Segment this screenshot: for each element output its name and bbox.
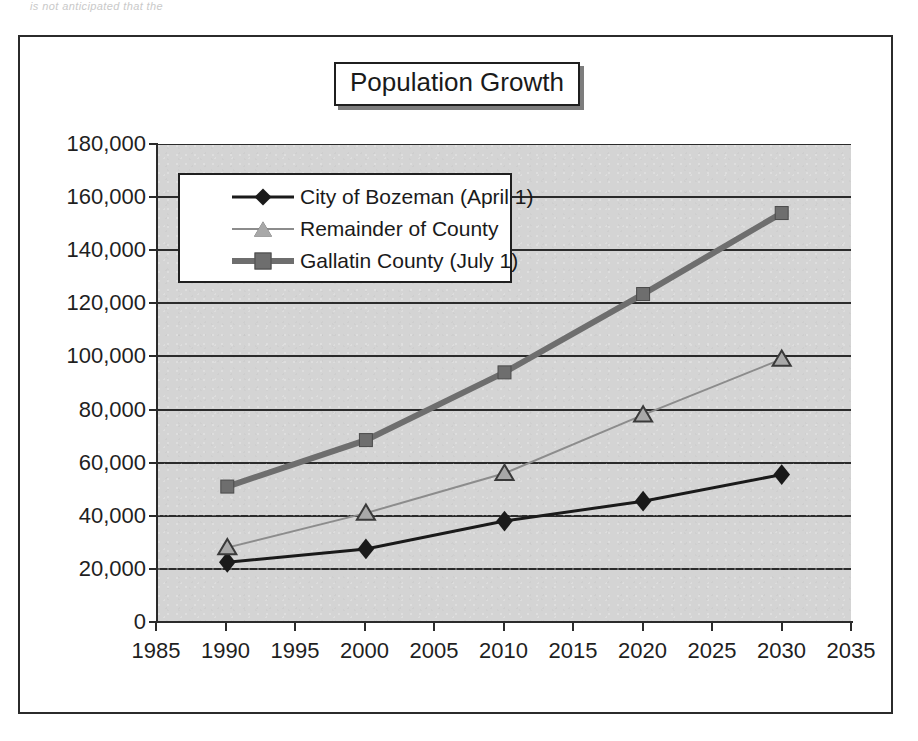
y-tick-mark (149, 462, 158, 464)
y-tick-label: 160,000 (30, 184, 146, 210)
data-point-marker (635, 491, 652, 512)
data-point-marker (358, 539, 375, 560)
legend-diamond-icon (232, 186, 294, 208)
data-point-marker (498, 366, 511, 379)
legend-item: City of Bozeman (April 1) (180, 181, 510, 213)
chart-title-box: Population Growth (334, 62, 580, 106)
x-tick-label: 2005 (410, 638, 459, 664)
legend-item-label: City of Bozeman (April 1) (300, 185, 533, 209)
legend-square-icon (232, 250, 294, 272)
y-tick-mark (149, 302, 158, 304)
data-point-marker (634, 406, 652, 421)
legend-item-label: Remainder of County (300, 217, 498, 241)
x-tick-mark (711, 621, 713, 631)
y-tick-label: 40,000 (30, 503, 146, 529)
x-tick-label: 2030 (757, 638, 806, 664)
x-tick-mark (433, 621, 435, 631)
x-tick-mark (364, 621, 366, 631)
x-tick-mark (642, 621, 644, 631)
x-tick-mark (225, 621, 227, 631)
x-tick-label: 1990 (201, 638, 250, 664)
x-tick-label: 2035 (827, 638, 876, 664)
legend-item: Remainder of County (180, 213, 510, 245)
y-tick-mark (149, 621, 158, 623)
data-point-marker (637, 288, 650, 301)
y-tick-mark (149, 196, 158, 198)
data-point-marker (221, 480, 234, 493)
x-tick-label: 2010 (479, 638, 528, 664)
x-tick-label: 1995 (271, 638, 320, 664)
x-tick-mark (850, 621, 852, 631)
legend-item: Gallatin County (July 1) (180, 245, 510, 277)
chart-page: is not anticipated that the Population G… (0, 0, 918, 741)
x-tick-label: 2025 (688, 638, 737, 664)
y-tick-mark (149, 249, 158, 251)
y-tick-label: 180,000 (30, 131, 146, 157)
y-tick-mark (149, 355, 158, 357)
x-tick-label: 2015 (549, 638, 598, 664)
y-tick-label: 0 (30, 609, 146, 635)
y-tick-label: 60,000 (30, 450, 146, 476)
data-point-marker (496, 511, 513, 532)
y-tick-label: 80,000 (30, 397, 146, 423)
y-tick-label: 120,000 (30, 290, 146, 316)
y-tick-mark (149, 568, 158, 570)
x-tick-mark (503, 621, 505, 631)
y-tick-label: 20,000 (30, 556, 146, 582)
x-tick-label: 2000 (340, 638, 389, 664)
chart-legend: City of Bozeman (April 1)Remainder of Co… (178, 173, 512, 283)
x-axis-line (156, 621, 853, 623)
data-point-marker (495, 465, 513, 480)
y-tick-mark (149, 515, 158, 517)
data-point-marker (773, 464, 790, 485)
legend-triangle-icon (232, 218, 294, 240)
chart-title: Population Growth (350, 68, 564, 98)
data-point-marker (359, 434, 372, 447)
y-tick-mark (149, 143, 158, 145)
y-tick-label: 100,000 (30, 343, 146, 369)
x-tick-mark (781, 621, 783, 631)
scan-text-fragment: is not anticipated that the (30, 0, 163, 12)
y-tick-label: 140,000 (30, 237, 146, 263)
data-point-marker (773, 350, 791, 365)
x-tick-label: 1985 (132, 638, 181, 664)
x-tick-mark (294, 621, 296, 631)
data-point-marker (775, 207, 788, 220)
x-tick-label: 2020 (618, 638, 667, 664)
x-tick-mark (572, 621, 574, 631)
y-axis-labels: 020,00040,00060,00080,000100,000120,0001… (22, 144, 146, 622)
y-tick-mark (149, 409, 158, 411)
legend-item-label: Gallatin County (July 1) (300, 249, 518, 273)
